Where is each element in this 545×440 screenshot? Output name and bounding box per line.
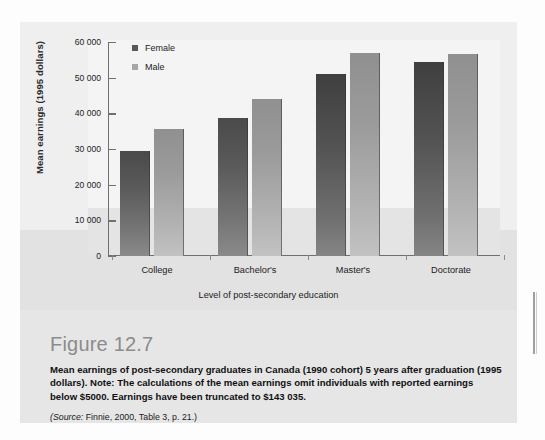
- y-tick-label: 40 000: [55, 108, 101, 118]
- bar-group: [316, 42, 414, 256]
- bar-male-masters: [350, 53, 380, 256]
- y-tick-label: 60 000: [55, 37, 101, 47]
- bar-male-college: [154, 129, 184, 256]
- x-tick-mark: [210, 255, 211, 260]
- x-tick-mark: [112, 255, 113, 260]
- caption-block: Figure 12.7 Mean earnings of post-second…: [50, 334, 502, 422]
- y-tick-label: 50 000: [55, 73, 101, 83]
- x-tick-mark: [504, 255, 505, 260]
- y-tick-label: 20 000: [55, 180, 101, 190]
- x-axis-label-masters: Master's: [304, 265, 402, 275]
- figure-source-prefix: (Source:: [50, 412, 83, 422]
- page-edge-artifact-highlight: [536, 292, 537, 354]
- x-axis-title: Level of post-secondary education: [20, 290, 517, 300]
- bar-female-doctorate: [414, 62, 444, 256]
- page-edge-artifact: [533, 292, 535, 354]
- figure-description: Mean earnings of post-secondary graduate…: [50, 363, 502, 403]
- figure-panel: Mean earnings (1995 dollars) 010 00020 0…: [20, 22, 517, 423]
- x-axis-label-doctorate: Doctorate: [402, 265, 500, 275]
- bar-female-college: [120, 151, 150, 256]
- bar-male-doctorate: [448, 54, 478, 256]
- figure-title: Figure 12.7: [50, 334, 502, 354]
- bar-female-bachelors: [218, 118, 248, 256]
- bar-chart: Mean earnings (1995 dollars) 010 00020 0…: [20, 22, 517, 312]
- bar-series-container: [108, 42, 500, 256]
- y-tick-label: 30 000: [55, 144, 101, 154]
- figure-source-text: Finnie, 2000, Table 3, p. 21.): [83, 412, 197, 422]
- y-tick-label: 10 000: [55, 215, 101, 225]
- x-tick-mark: [308, 255, 309, 260]
- y-axis-title: Mean earnings (1995 dollars): [34, 23, 45, 193]
- bar-male-bachelors: [252, 99, 282, 256]
- x-axis-label-bachelors: Bachelor's: [206, 265, 304, 275]
- figure-source: (Source: Finnie, 2000, Table 3, p. 21.): [50, 412, 502, 422]
- bar-group: [414, 42, 512, 256]
- bar-group: [218, 42, 316, 256]
- bar-group: [120, 42, 218, 256]
- figure-page: Mean earnings (1995 dollars) 010 00020 0…: [0, 0, 545, 440]
- bar-female-masters: [316, 74, 346, 256]
- x-tick-mark: [406, 255, 407, 260]
- x-axis-label-college: College: [108, 265, 206, 275]
- y-tick-label: 0: [55, 251, 101, 261]
